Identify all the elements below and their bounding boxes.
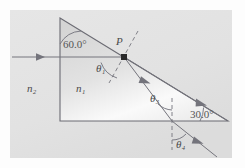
apex-angle-label: 60.0° bbox=[63, 38, 87, 50]
base-angle-label: 30.0° bbox=[190, 108, 214, 120]
n1-label: n₁ bbox=[76, 82, 86, 94]
theta4-label: θ₄ bbox=[176, 138, 185, 150]
theta3-label: θ₃ bbox=[150, 92, 159, 104]
point-p-label: P bbox=[115, 35, 123, 47]
theta1-label: θ₁ bbox=[96, 62, 105, 74]
physics-figure: 60.0° 30.0° P θ₁ θ₃ θ₄ n₁ n₂ bbox=[0, 0, 245, 168]
n2-label: n₂ bbox=[27, 82, 37, 94]
point-p-marker bbox=[121, 54, 127, 60]
refraction-diagram: 60.0° 30.0° P θ₁ θ₃ θ₄ n₁ n₂ bbox=[0, 0, 245, 168]
